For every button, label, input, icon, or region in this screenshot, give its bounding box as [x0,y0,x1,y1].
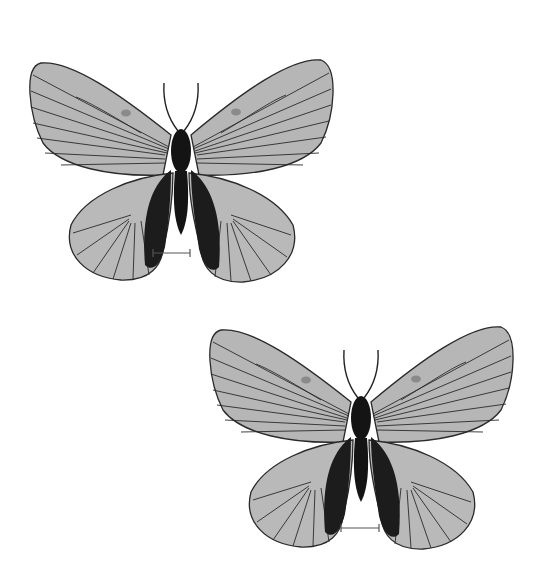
butterfly-specimen-1 [30,60,333,282]
butterfly-specimen-2 [210,327,513,549]
scale-bar-2 [341,524,379,532]
specimen-plate: Two butterfly specimens (dorsal view), g… [0,0,548,577]
